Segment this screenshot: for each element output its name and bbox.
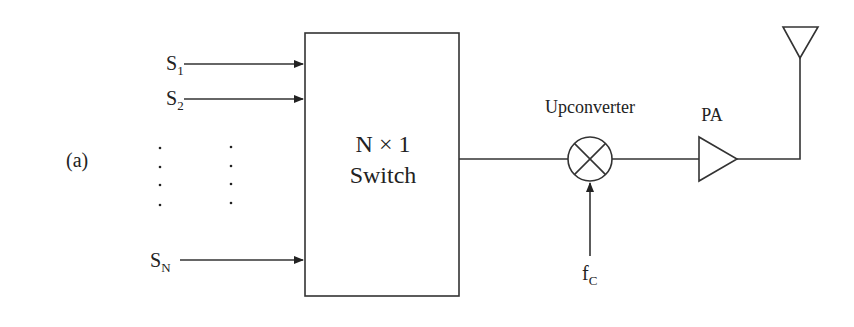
switch-block: N × 1 Switch [305,33,459,296]
power-amplifier: PA [699,105,737,181]
amplifier-icon [699,137,737,181]
signal-line-pa-antenna [737,58,800,159]
switch-label-line1: N × 1 [356,131,411,157]
svg-text:S2: S2 [166,87,184,113]
svg-text:SN: SN [150,249,171,275]
block-diagram: (a) S1 S2 SN N × 1 Switch Upconverter fC [0,0,854,327]
input-sn: SN [150,249,303,275]
upconverter-mixer: Upconverter [545,97,635,181]
carrier-input: fC [582,183,597,288]
vertical-ellipsis [159,146,233,207]
svg-text:S1: S1 [166,52,184,78]
input-s2: S2 [166,87,303,113]
svg-text:fC: fC [582,262,597,288]
upconverter-label: Upconverter [545,97,635,117]
panel-label: (a) [66,149,88,172]
antenna-icon [783,27,818,58]
pa-label: PA [701,105,722,125]
switch-label-line2: Switch [350,162,417,188]
input-s1: S1 [166,52,303,78]
